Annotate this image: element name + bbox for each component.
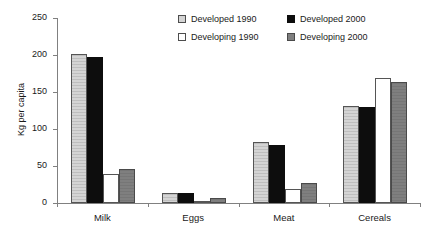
bar [103,174,119,203]
bar [194,201,210,203]
bar [285,189,301,203]
x-axis-category-label: Meat [239,212,330,224]
x-axis-tick [57,203,58,207]
bar [391,82,407,203]
y-axis-tick: 150 [53,92,57,93]
x-axis-tick [148,203,149,207]
bar-group [162,18,226,203]
y-axis-tick-label: 250 [32,12,47,23]
bar [343,106,359,203]
bar [210,198,226,203]
plot-area: 050100150200250 MilkEggsMeatCereals [57,18,420,203]
x-axis-category-label: Milk [57,212,148,224]
bar [359,107,375,203]
x-axis-tick [420,203,421,207]
x-axis-category-label: Eggs [148,212,239,224]
y-axis-tick-label: 0 [42,197,47,208]
y-axis-tick: 250 [53,18,57,19]
y-axis-tick: 50 [53,166,57,167]
bar [375,78,391,203]
bar-group [343,18,407,203]
bar-group [71,18,135,203]
y-axis-title: Kg per capita [16,58,27,72]
bar-group [253,18,317,203]
bar [178,193,194,203]
y-axis-title-text: Kg per capita [16,122,27,136]
bar [301,183,317,203]
x-axis-tick [329,203,330,207]
y-axis-tick-label: 100 [32,123,47,134]
bar [253,142,269,203]
bar [87,57,103,203]
y-axis-tick-label: 50 [37,160,47,171]
bar [71,54,87,203]
y-axis-tick: 200 [53,55,57,56]
y-axis-tick: 100 [53,129,57,130]
y-axis-tick-label: 200 [32,49,47,60]
x-axis-category-label: Cereals [329,212,420,224]
y-axis-line [57,18,58,203]
bar [269,145,285,203]
y-axis-tick-label: 150 [32,86,47,97]
bar [162,193,178,203]
x-axis-tick [239,203,240,207]
bar-chart: Developed 1990 Developed 2000 Developing… [0,0,433,238]
bar [119,169,135,203]
